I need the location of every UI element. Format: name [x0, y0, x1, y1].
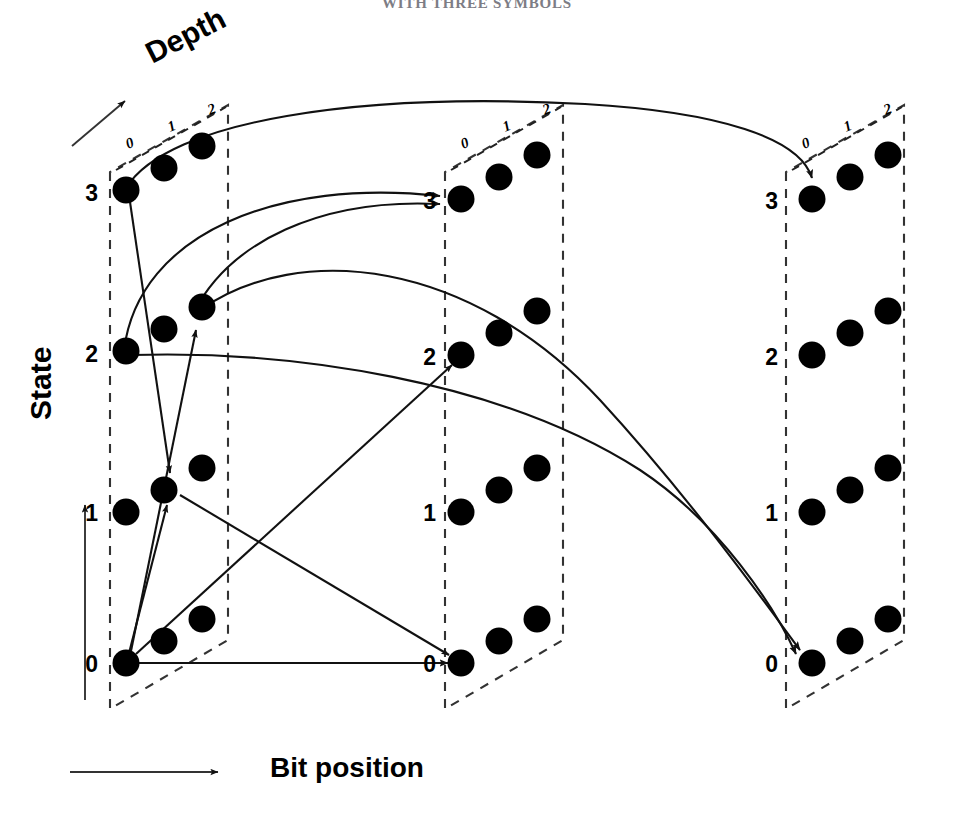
node-c2-s1-d1	[837, 477, 864, 504]
node-c2-s0-d0	[799, 650, 826, 677]
node-c0-s1-d0	[113, 499, 140, 526]
node-c0-s0-d1	[151, 628, 178, 655]
state-label-c0-3: 3	[72, 180, 98, 207]
node-c2-s2-d0	[799, 342, 826, 369]
node-c1-s3-d2	[524, 142, 551, 169]
state-axis-label: State	[24, 347, 58, 420]
state-label-c2-3: 3	[752, 188, 778, 215]
state-label-c2-1: 1	[752, 500, 778, 527]
state-label-c0-2: 2	[72, 341, 98, 368]
node-c2-s2-d2	[875, 298, 902, 325]
state-label-c2-2: 2	[752, 344, 778, 371]
node-c0-s3-d0	[113, 177, 140, 204]
state-label-c1-1: 1	[410, 500, 436, 527]
node-c0-s0-d0	[113, 650, 140, 677]
node-c2-s3-d2	[875, 142, 902, 169]
node-c0-s2-d1	[151, 316, 178, 343]
node-c1-s3-d1	[486, 164, 513, 191]
state-label-c0-1: 1	[72, 500, 98, 527]
node-group-column-1	[448, 142, 551, 677]
node-c2-s3-d0	[799, 186, 826, 213]
depth-axis-arrow	[72, 101, 125, 146]
node-c2-s0-d2	[875, 606, 902, 633]
state-label-c1-2: 2	[410, 344, 436, 371]
node-c2-s2-d1	[837, 320, 864, 347]
node-c0-s1-d1	[151, 477, 178, 504]
node-c0-s2-d0	[113, 338, 140, 365]
depth-axis-guides	[116, 107, 902, 170]
node-c2-s3-d1	[837, 164, 864, 191]
node-c0-s3-d2	[189, 133, 216, 160]
node-c1-s0-d1	[486, 628, 513, 655]
transition-edges-straight	[128, 202, 452, 663]
node-c2-s1-d0	[799, 499, 826, 526]
state-label-c2-0: 0	[752, 651, 778, 678]
trellis-diagram-svg	[0, 0, 954, 832]
node-c1-s2-d0	[448, 342, 475, 369]
node-c1-s1-d0	[448, 499, 475, 526]
node-c0-s3-d1	[151, 155, 178, 182]
node-group-column-2	[799, 142, 902, 677]
node-c1-s3-d0	[448, 186, 475, 213]
node-c0-s1-d2	[189, 455, 216, 482]
edge-c0s0-c1s2	[136, 365, 452, 654]
state-label-c1-0: 0	[410, 651, 436, 678]
state-label-c1-3: 3	[410, 188, 436, 215]
node-c2-s1-d2	[875, 455, 902, 482]
node-c1-s2-d2	[524, 298, 551, 325]
node-c1-s1-d2	[524, 455, 551, 482]
node-c1-s2-d1	[486, 320, 513, 347]
node-c1-s0-d0	[448, 650, 475, 677]
node-c1-s0-d2	[524, 606, 551, 633]
node-c0-s2-d2	[189, 294, 216, 321]
node-c2-s0-d1	[837, 628, 864, 655]
node-c1-s1-d1	[486, 477, 513, 504]
bit-position-axis-label: Bit position	[270, 752, 424, 784]
node-c0-s0-d2	[189, 606, 216, 633]
state-label-c0-0: 0	[72, 651, 98, 678]
diagram-canvas: WITH THREE SYMBOLS	[0, 0, 954, 832]
edge-c0s1-c1s0	[180, 495, 449, 655]
